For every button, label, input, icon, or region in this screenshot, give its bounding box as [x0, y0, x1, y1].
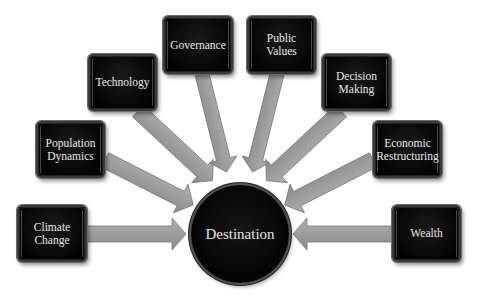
- factor-label: Population Dynamics: [44, 137, 98, 163]
- factor-box-technology: Technology: [88, 54, 157, 111]
- factor-box-governance: Governance: [163, 16, 233, 74]
- diagram-canvas: Climate Change Population Dynamics Techn…: [0, 0, 477, 298]
- factor-label: Technology: [93, 76, 151, 89]
- factor-label: Governance: [168, 39, 228, 52]
- factor-box-wealth: Wealth: [392, 205, 461, 262]
- factor-box-climate-change: Climate Change: [17, 205, 87, 262]
- arrow-climate-change: [87, 218, 186, 250]
- factor-label: Public Values: [264, 32, 299, 58]
- factor-label: Climate Change: [32, 221, 72, 247]
- destination-label: Destination: [205, 226, 274, 243]
- factor-box-decision-making: Decision Making: [322, 54, 391, 111]
- factor-box-economic-restructuring: Economic Restructuring: [373, 121, 442, 178]
- destination-circle: Destination: [191, 185, 289, 283]
- factor-box-population-dynamics: Population Dynamics: [36, 121, 105, 178]
- factor-label: Wealth: [408, 227, 444, 240]
- arrow-wealth: [293, 218, 392, 250]
- factor-label: Economic Restructuring: [374, 137, 441, 163]
- factor-box-public-values: Public Values: [247, 16, 316, 74]
- factor-label: Decision Making: [334, 70, 379, 96]
